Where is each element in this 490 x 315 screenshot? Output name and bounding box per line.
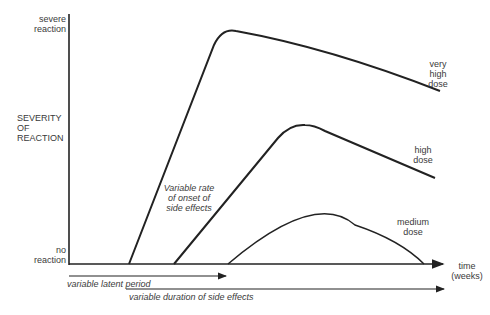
annotation-line: of onset of bbox=[158, 193, 220, 203]
label-line: dose bbox=[390, 227, 436, 237]
label-line: medium bbox=[390, 217, 436, 227]
y-tick-line: reaction bbox=[20, 255, 66, 265]
x-axis-title: time (weeks) bbox=[448, 261, 486, 281]
label-line: dose bbox=[418, 79, 458, 89]
y-title-line: SEVERITY bbox=[17, 113, 64, 123]
label-line: high bbox=[403, 145, 443, 155]
label-line: dose bbox=[403, 155, 443, 165]
y-title-line: REACTION bbox=[17, 133, 64, 143]
y-tick-line: no bbox=[20, 245, 66, 255]
x-title-line: (weeks) bbox=[448, 271, 486, 281]
label-line: very bbox=[418, 59, 458, 69]
y-axis-title: SEVERITY OF REACTION bbox=[17, 113, 64, 143]
latent-period-label: variable latent period bbox=[67, 279, 151, 289]
y-tick-none: no reaction bbox=[20, 245, 66, 265]
high-dose-label: high dose bbox=[403, 145, 443, 165]
annotation-line: side effects bbox=[158, 203, 220, 213]
y-title-line: OF bbox=[17, 123, 64, 133]
very-high-dose-label: very high dose bbox=[418, 59, 458, 89]
y-tick-severe: severe reaction bbox=[20, 14, 66, 34]
onset-annotation: Variable rate of onset of side effects bbox=[158, 183, 220, 213]
x-title-line: time bbox=[448, 261, 486, 271]
duration-label: variable duration of side effects bbox=[129, 292, 254, 302]
medium-dose-label: medium dose bbox=[390, 217, 436, 237]
label-line: high bbox=[418, 69, 458, 79]
y-tick-line: severe bbox=[20, 14, 66, 24]
annotation-line: Variable rate bbox=[158, 183, 220, 193]
y-tick-line: reaction bbox=[20, 24, 66, 34]
